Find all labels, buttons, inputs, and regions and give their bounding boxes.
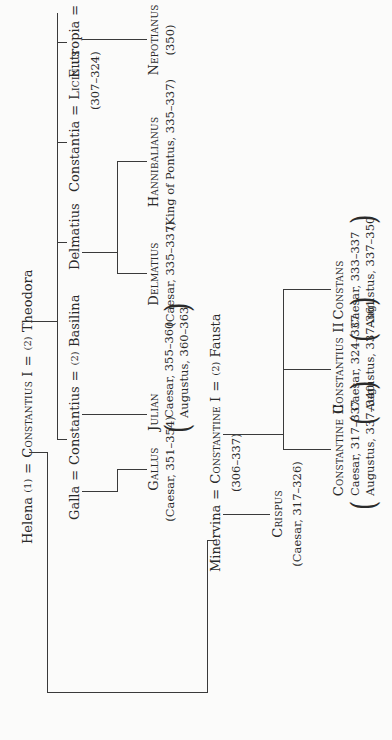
line-to-crispus xyxy=(223,514,270,515)
constantine-row: Minervina=Constantine I=(2) Fausta xyxy=(208,313,223,572)
julian-caesar: Caesar, 355–360 xyxy=(162,322,177,418)
equals-sign: = xyxy=(208,484,223,505)
line-to-delmatius-jr xyxy=(117,273,147,274)
constans-augustus: Augustus, 337–350 xyxy=(363,217,378,328)
julian-augustus: Augustus, 360–363 xyxy=(177,307,192,418)
constantine-dates: (306–337) xyxy=(229,433,244,492)
hannibalianus-dates: (King of Pontus, 335–337) xyxy=(163,90,178,230)
line-theodora-children xyxy=(57,13,58,440)
line-to-delmatius xyxy=(57,242,67,243)
line-to-julian xyxy=(82,414,147,415)
brace-left: ( xyxy=(162,424,192,433)
equals-sign: = xyxy=(67,100,82,121)
line-to-eutropia xyxy=(57,42,67,43)
nepotianus-jr-dates: (350) xyxy=(163,0,178,80)
constans: Constans xyxy=(331,244,346,336)
line-helena-child xyxy=(29,452,47,453)
licinius-dates: (307–324) xyxy=(88,51,103,110)
line-to-constantius-ii xyxy=(283,369,331,370)
hannibalianus: Hannibalianus xyxy=(146,104,161,220)
eutropia-nepotianus-row: Eutropia=Nepotianus xyxy=(67,0,82,78)
delmatius: Delmatius xyxy=(67,203,82,270)
line-sons xyxy=(283,290,284,450)
line-to-gallus xyxy=(117,469,147,470)
equals-sign: = xyxy=(67,0,82,21)
equals-sign: = xyxy=(67,465,82,486)
marriage-number-2: (2) xyxy=(22,336,33,350)
helena: Helena xyxy=(20,497,35,544)
fausta-number: (2) xyxy=(210,362,221,376)
theodora: Theodora xyxy=(20,269,35,332)
line-to-hannibalianus xyxy=(117,161,147,162)
constantine-i: Constantine I xyxy=(208,397,223,484)
eutropia: Eutropia xyxy=(67,21,82,78)
diagram-stage: Helena (1)=Constantius I=(2) Theodora Ga… xyxy=(0,0,392,740)
julian: Julian xyxy=(146,374,161,450)
brace-right: ) xyxy=(348,215,378,224)
equals-sign: = xyxy=(208,376,223,397)
line-delmatius-children xyxy=(117,162,118,274)
constantine-ii-caesar: Caesar, 317–337 xyxy=(348,400,363,496)
constantius: Constantius xyxy=(67,386,82,465)
fausta: Fausta xyxy=(208,313,223,357)
equals-sign: = xyxy=(67,365,82,386)
constantia: Constantia xyxy=(67,121,82,192)
brace-left: ( xyxy=(348,416,378,425)
equals-sign: = xyxy=(20,350,35,371)
line-gallus-h xyxy=(117,470,118,492)
galla-constantius-row: Galla=Constantius=(2) Basilina xyxy=(67,295,82,521)
equals-sign: = xyxy=(20,458,35,479)
gen1-row: Helena (1)=Constantius I=(2) Theodora xyxy=(20,269,35,544)
line-to-nepotianus-jr xyxy=(82,39,147,40)
line-to-constans xyxy=(283,289,331,290)
nepotianus-jr: Nepotianus xyxy=(146,0,161,80)
line-helena-branch xyxy=(47,452,48,693)
crispus-dates: (Caesar, 317–326) xyxy=(290,456,305,572)
basilina: Basilina xyxy=(67,295,82,348)
minervina: Minervina xyxy=(208,505,223,572)
constans-caesar: Caesar, 333–337 xyxy=(348,232,363,328)
line-to-constantius xyxy=(57,439,67,440)
line-theodora-child xyxy=(29,321,57,322)
brace-left: ( xyxy=(348,333,378,342)
line-to-constantine xyxy=(47,692,207,693)
line-to-constantine-ii xyxy=(283,449,331,450)
delmatius-jr: Delmatius xyxy=(146,228,161,320)
line-galla-child xyxy=(82,491,117,492)
galla: Galla xyxy=(67,486,82,520)
family-tree: Helena (1)=Constantius I=(2) Theodora Ga… xyxy=(0,0,392,740)
line-fausta-child xyxy=(223,434,283,435)
constantius-i: Constantius I xyxy=(20,371,35,457)
delmatius-jr-dates: (Caesar, 335–337) xyxy=(163,212,178,336)
marriage-number-1: (1) xyxy=(22,479,33,493)
constantius-ii-caesar: Caesar, 324–337 xyxy=(348,315,363,411)
brace-left: ( xyxy=(348,501,378,510)
crispus: Crispus xyxy=(270,474,285,554)
line-to-constantia xyxy=(57,142,67,143)
line-delmatius-child xyxy=(82,252,117,253)
basilina-number: (2) xyxy=(69,351,80,365)
